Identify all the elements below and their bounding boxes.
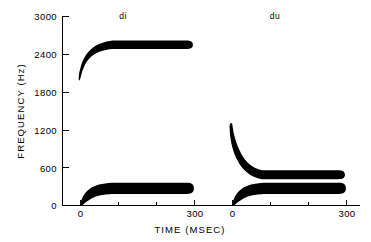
- x-axis-title: TIME (MSEC): [154, 224, 225, 235]
- y-axis-title: FREQUENCY (Hz): [15, 63, 26, 158]
- formant-trace-du-f2: [230, 123, 345, 179]
- y-tick-label-1800: 1800: [34, 87, 57, 98]
- formant-trace-du-f1: [232, 183, 346, 206]
- formant-chart: 3000 2400 1800 1200 600 0 FREQUENCY (Hz)…: [0, 0, 371, 242]
- panel-label-du: du: [270, 11, 280, 21]
- panel-label-di: di: [119, 11, 127, 21]
- spectrogram-figure: 3000 2400 1800 1200 600 0 FREQUENCY (Hz)…: [0, 0, 371, 242]
- x-tick-label-b-0: 0: [230, 208, 236, 219]
- x-tick-label-b-300: 300: [338, 208, 355, 219]
- x-axis-ticks: [81, 200, 347, 206]
- y-axis-ticks: [63, 17, 70, 206]
- formant-trace-di-f1: [80, 183, 194, 206]
- x-tick-label-a-0: 0: [78, 208, 84, 219]
- x-tick-label-a-300: 300: [186, 208, 203, 219]
- formant-trace-di-f2: [79, 41, 193, 81]
- y-tick-label-2400: 2400: [34, 49, 57, 60]
- y-tick-label-600: 600: [40, 163, 57, 174]
- y-tick-label-3000: 3000: [34, 11, 57, 22]
- y-tick-label-1200: 1200: [34, 125, 57, 136]
- y-tick-label-0: 0: [51, 200, 57, 211]
